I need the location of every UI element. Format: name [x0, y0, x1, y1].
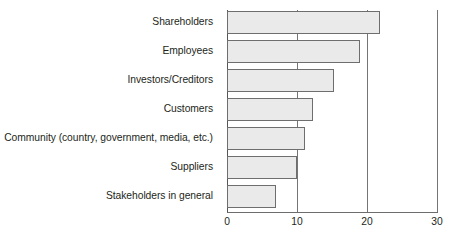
plot-area — [227, 10, 438, 212]
x-tick-label-20: 20 — [361, 216, 372, 227]
bar-stakeholders-in-general — [227, 185, 276, 208]
bar-community — [227, 127, 305, 150]
category-label-employees: Employees — [163, 39, 214, 62]
x-axis-tick-labels: 0 10 20 30 — [227, 216, 455, 232]
bar-suppliers — [227, 156, 297, 179]
category-label-investors-creditors: Investors/Creditors — [128, 68, 213, 91]
gridline-20 — [367, 10, 368, 212]
x-tick-label-10: 10 — [291, 216, 302, 227]
bar-investors-creditors — [227, 69, 334, 92]
plot-right-border — [437, 10, 438, 212]
bar-shareholders — [227, 11, 380, 34]
x-tick-label-30: 30 — [431, 216, 442, 227]
category-label-stakeholders-in-general: Stakeholders in general — [106, 184, 213, 207]
category-label-community: Community (country, government, media, e… — [4, 126, 213, 149]
category-label-customers: Customers — [164, 97, 213, 120]
x-tick-label-0: 0 — [224, 216, 230, 227]
category-label-suppliers: Suppliers — [171, 155, 213, 178]
bar-chart: Shareholders Employees Investors/Credito… — [0, 0, 455, 243]
category-axis-labels: Shareholders Employees Investors/Credito… — [0, 10, 219, 213]
category-label-shareholders: Shareholders — [152, 10, 213, 33]
x-axis-line — [227, 212, 438, 213]
bar-customers — [227, 98, 313, 121]
bar-employees — [227, 40, 360, 63]
